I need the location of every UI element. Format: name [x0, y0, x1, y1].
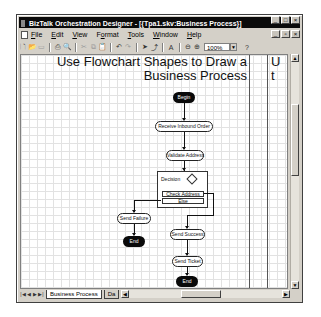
decision-shape[interactable]: Decision Check Address Else — [157, 171, 208, 208]
tab-data[interactable]: Da — [104, 290, 120, 299]
document-icon[interactable] — [21, 31, 28, 39]
decision-label: Decision — [161, 176, 180, 182]
zoom-in-icon[interactable]: ⊕ — [193, 43, 201, 51]
cut-icon[interactable]: ✂ — [80, 43, 88, 51]
copy-icon[interactable]: ⧉ — [89, 43, 97, 51]
send-failure-shape[interactable]: Send Failure — [117, 213, 151, 224]
open-icon[interactable]: 📂 — [28, 43, 36, 51]
toolbar-separator — [49, 43, 51, 52]
minimize-button[interactable]: _ — [271, 16, 280, 24]
canvas-heading: Use Flowchart Shapes to Draw a Business … — [47, 55, 247, 83]
canvas-heading-next-page: U t — [271, 55, 280, 83]
toolbar-separator — [179, 43, 181, 52]
menu-tools[interactable]: Tools — [128, 29, 144, 40]
scroll-right-button[interactable]: ▶ — [282, 290, 290, 298]
horizontal-scrollbar[interactable]: ◀ ▶ — [121, 290, 290, 298]
toolbar: 🗋 📂 ▭ ⎙ 🔍 ✂ ⧉ 📋 ↶ ↷ ➤ ⤴ A ⊖ ⊕ 100% ▼ ? — [19, 41, 300, 53]
horizontal-scroll-thumb[interactable] — [181, 290, 221, 298]
toolbar-separator — [162, 43, 164, 52]
toolbar-separator — [75, 43, 77, 52]
zoom-dropdown-icon[interactable]: ▼ — [230, 43, 237, 51]
toolbar-separator — [110, 43, 112, 52]
redo-icon[interactable]: ↷ — [124, 43, 132, 51]
last-tab-button[interactable]: ▶| — [38, 290, 44, 298]
connector — [213, 193, 214, 215]
undo-icon[interactable]: ↶ — [115, 43, 123, 51]
app-icon — [21, 20, 25, 27]
menu-help[interactable]: Help — [187, 29, 201, 40]
caption-buttons: _ □ × — [271, 16, 300, 24]
page-break-line — [267, 55, 268, 288]
print-icon[interactable]: ⎙ — [54, 43, 62, 51]
diamond-icon — [186, 173, 197, 184]
app-window: BizTalk Orchestration Designer - [{Tpa1.… — [16, 14, 303, 303]
window-title: BizTalk Orchestration Designer - [{Tpa1.… — [29, 20, 242, 27]
send-success-shape[interactable]: Send Success — [170, 229, 205, 240]
connector — [187, 215, 214, 216]
menu-window[interactable]: Window — [153, 29, 178, 40]
send-ticket-shape[interactable]: Send Ticket — [172, 256, 203, 267]
connector-tool-icon[interactable]: ⤴ — [150, 43, 158, 51]
connector — [134, 200, 161, 201]
print-preview-icon[interactable]: 🔍 — [63, 43, 71, 51]
zoom-out-icon[interactable]: ⊖ — [184, 43, 192, 51]
paste-icon[interactable]: 📋 — [98, 43, 106, 51]
text-tool-icon[interactable]: A — [167, 43, 175, 51]
scroll-left-button[interactable]: ◀ — [121, 290, 129, 298]
begin-shape[interactable]: Begin — [173, 92, 195, 103]
menu-file[interactable]: File — [31, 29, 42, 40]
zoom-level-input[interactable]: 100% — [204, 43, 230, 51]
toolbar-separator — [136, 43, 138, 52]
menu-view[interactable]: View — [72, 29, 87, 40]
doc-restore-button[interactable]: ▫ — [281, 30, 290, 38]
menu-bar: File Edit View Format Tools Window Help — [19, 29, 300, 40]
new-icon[interactable]: 🗋 — [19, 43, 27, 51]
rule-else[interactable]: Else — [162, 198, 204, 204]
save-icon[interactable]: ▭ — [37, 43, 45, 51]
end-shape-success[interactable]: End — [176, 276, 198, 287]
doc-minimize-button[interactable]: _ — [271, 30, 280, 38]
page-break-line — [249, 55, 250, 288]
maximize-button[interactable]: □ — [281, 16, 290, 24]
validate-address-shape[interactable]: Validate Address — [166, 150, 204, 161]
end-shape-failure[interactable]: End — [123, 236, 145, 247]
drawing-canvas[interactable]: Use Flowchart Shapes to Draw a Business … — [20, 54, 288, 289]
help-icon[interactable]: ? — [243, 43, 251, 51]
scroll-up-button[interactable]: ▲ — [291, 54, 299, 62]
vertical-scroll-thumb[interactable] — [291, 104, 299, 176]
pointer-tool-icon[interactable]: ➤ — [141, 43, 149, 51]
menu-format[interactable]: Format — [96, 29, 118, 40]
vertical-scrollbar[interactable]: ▲ ▼ — [290, 54, 299, 289]
doc-close-button[interactable]: × — [291, 30, 300, 38]
title-bar[interactable]: BizTalk Orchestration Designer - [{Tpa1.… — [19, 17, 300, 28]
close-button[interactable]: × — [291, 16, 300, 24]
sheet-tab-bar: |◀ ◀ ▶ ▶| Business Process Da ◀ ▶ — [20, 289, 290, 299]
receive-inbound-order-shape[interactable]: Receive Inbound Order — [155, 121, 213, 132]
scroll-down-button[interactable]: ▼ — [291, 281, 299, 289]
menu-edit[interactable]: Edit — [51, 29, 63, 40]
tab-business-process[interactable]: Business Process — [46, 290, 102, 299]
rule-check-address[interactable]: Check Address — [162, 191, 204, 197]
document-caption-buttons: _ ▫ × — [271, 30, 300, 38]
